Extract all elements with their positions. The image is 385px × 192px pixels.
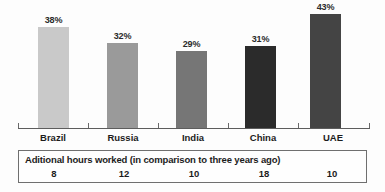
bar-column-russia: 32%: [107, 0, 138, 129]
axis-tick-3: [228, 123, 229, 128]
bar-column-india: 29%: [176, 0, 207, 129]
category-label-india: India: [158, 131, 228, 144]
plot-area: 38% 32% 29% 31% 43%: [0, 0, 385, 129]
bar-brazil: [38, 27, 69, 129]
bar-russia: [107, 43, 138, 129]
bar-value-label-brazil: 38%: [26, 15, 81, 25]
category-label-brazil: Brazil: [18, 131, 88, 144]
bar-column-china: 31%: [245, 0, 276, 129]
footer-caption: Aditional hours worked (in comparison to…: [25, 153, 362, 166]
bar-column-brazil: 38%: [38, 0, 69, 129]
category-label-row: Brazil Russia India China UAE: [0, 131, 385, 147]
axis-tick-end: [369, 123, 370, 128]
axis-tick-1: [88, 123, 89, 128]
x-axis-line: [18, 128, 370, 129]
footer-value-brazil: 8: [24, 167, 84, 180]
category-label-uae: UAE: [298, 131, 368, 144]
chart-figure: 38% 32% 29% 31% 43% Brazil Russia India …: [0, 0, 385, 192]
category-label-russia: Russia: [88, 131, 158, 144]
footer-table: Aditional hours worked (in comparison to…: [18, 150, 367, 183]
axis-tick-start: [18, 123, 19, 128]
bar-india: [176, 51, 207, 129]
bar-china: [245, 46, 276, 129]
footer-value-india: 10: [164, 167, 224, 180]
footer-value-china: 18: [234, 167, 294, 180]
bar-uae: [310, 14, 341, 129]
axis-tick-4: [298, 123, 299, 128]
bar-value-label-china: 31%: [233, 34, 288, 44]
footer-value-russia: 12: [94, 167, 154, 180]
bar-value-label-russia: 32%: [95, 31, 150, 41]
footer-value-uae: 10: [302, 167, 362, 180]
bar-column-uae: 43%: [310, 0, 341, 129]
category-label-china: China: [228, 131, 298, 144]
footer-value-row: 8 12 10 18 10: [19, 167, 368, 181]
bar-value-label-uae: 43%: [298, 2, 353, 12]
axis-tick-2: [158, 123, 159, 128]
bar-value-label-india: 29%: [164, 39, 219, 49]
